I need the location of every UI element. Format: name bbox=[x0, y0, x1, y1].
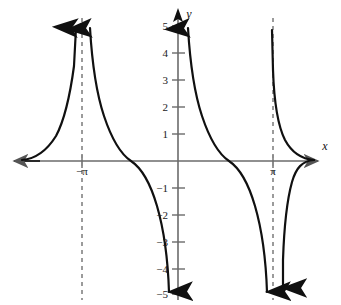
y-label-4: 4 bbox=[163, 47, 169, 59]
x-axis-label: x bbox=[321, 139, 328, 153]
y-label-neg3: −3 bbox=[156, 236, 168, 248]
y-label-neg1: −1 bbox=[156, 182, 168, 194]
curve-branch-third bbox=[188, 28, 267, 292]
curve-branch-left-partial bbox=[22, 28, 76, 160]
y-label-1: 1 bbox=[163, 128, 169, 140]
y-label-neg2: −2 bbox=[156, 209, 168, 221]
x-label-neg-pi: −π bbox=[76, 165, 88, 177]
curve-branch-second bbox=[90, 28, 169, 292]
y-label-neg5: −5 bbox=[156, 288, 168, 300]
y-label-5: 5 bbox=[163, 20, 169, 32]
curve-group bbox=[22, 28, 314, 292]
tangent-graph-figure: 5 4 3 2 1 −1 −2 −3 −4 −5 −π π x y bbox=[0, 0, 341, 305]
y-label-2: 2 bbox=[163, 101, 169, 113]
x-tick-label-group: −π π bbox=[76, 165, 276, 177]
curve-branch-right bbox=[283, 160, 314, 288]
curve-branch-right-group bbox=[283, 160, 314, 288]
y-axis-label: y bbox=[185, 7, 192, 21]
x-label-pi: π bbox=[270, 165, 276, 177]
y-label-neg4: −4 bbox=[156, 263, 168, 275]
y-label-3: 3 bbox=[163, 74, 169, 86]
graph-canvas: 5 4 3 2 1 −1 −2 −3 −4 −5 −π π x y bbox=[0, 0, 341, 305]
curve-group-right bbox=[276, 30, 316, 160]
